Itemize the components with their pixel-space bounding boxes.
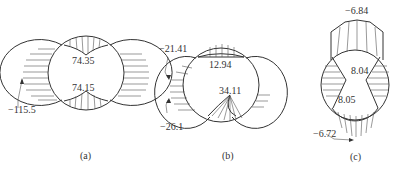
- caption-b: (b): [222, 150, 234, 162]
- panel-a-left-lobe: [0, 40, 62, 106]
- panel-a-top-notch: [64, 45, 108, 55]
- caption-c: (c): [350, 151, 361, 163]
- panel-b-hatching-bottom: [212, 96, 242, 121]
- panel-a-main-circle: [48, 36, 124, 110]
- panel-b-left-lobe: [155, 56, 210, 128]
- panel-c: −6.84 8.04 8.05 −6.72 (c): [313, 5, 389, 163]
- panel-a: 74.35 74.15 −115.5 (a): [0, 36, 172, 162]
- label-a-left: −115.5: [8, 104, 36, 115]
- arrow-head-icon: [20, 78, 24, 84]
- panel-b-leader-upper: [165, 57, 168, 78]
- label-b-top: 12.94: [209, 59, 232, 70]
- panel-c-hatching-bottom: [338, 112, 374, 137]
- label-b-lower-left: −26.1: [160, 121, 183, 132]
- caption-a: (a): [80, 150, 91, 162]
- panel-a-hatching-top: [70, 36, 100, 54]
- arrow-head-icon: [166, 98, 171, 103]
- label-c-top: −6.84: [345, 5, 368, 16]
- panel-c-main-circle: [321, 50, 389, 120]
- panel-b-hatching-right: [252, 95, 270, 107]
- panel-b-hatching-left: [170, 66, 195, 110]
- diagram-canvas: 74.35 74.15 −115.5 (a): [0, 0, 403, 170]
- label-a-top: 74.35: [72, 55, 95, 66]
- label-c-middle-lower: 8.05: [338, 94, 356, 105]
- arrow-head-icon: [166, 75, 171, 80]
- label-b-upper-left: −21.41: [159, 43, 187, 54]
- label-a-bottom: 74.15: [72, 82, 95, 93]
- arrow-head-icon: [349, 138, 354, 142]
- panel-c-hatching-top: [337, 20, 377, 56]
- label-c-middle-upper: 8.04: [351, 65, 369, 76]
- panel-a-hatching-right: [118, 54, 149, 96]
- panel-b: −21.41 12.94 34.11 −26.1 (b): [155, 43, 288, 162]
- panel-b-bottom-spike: [208, 95, 236, 116]
- panel-b-top-cap: [198, 54, 244, 57]
- label-c-bottom-left: −6.72: [313, 128, 336, 139]
- panel-b-hatching-top: [210, 44, 234, 57]
- panel-a-hatching-bottom: [70, 92, 101, 110]
- label-b-bottom: 34.11: [219, 85, 241, 96]
